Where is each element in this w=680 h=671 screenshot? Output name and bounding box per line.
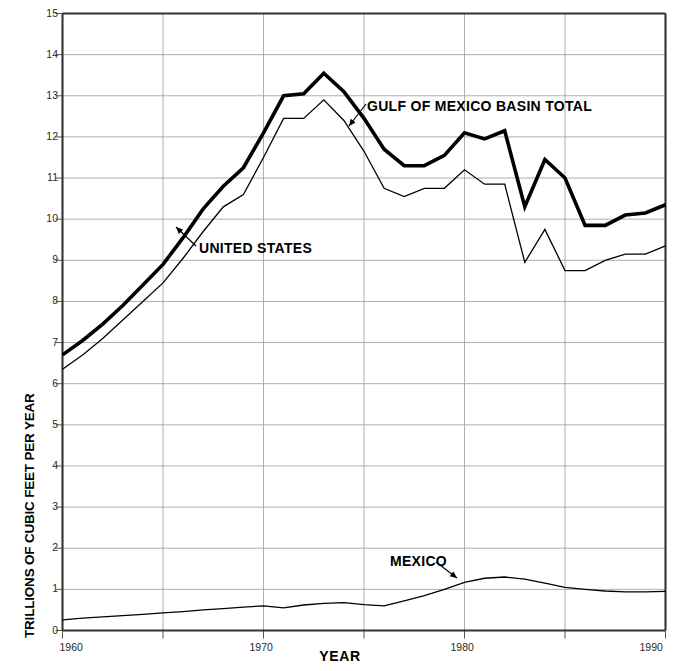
series-label-united-states: UNITED STATES	[199, 240, 312, 256]
series-label-gulf-of-mexico-basin-total: GULF OF MEXICO BASIN TOTAL	[367, 98, 592, 114]
series-label-mexico: MEXICO	[390, 553, 447, 569]
chart-figure: TRILLIONS OF CUBIC FEET PER YEAR 0123456…	[0, 0, 680, 671]
x-axis-title: YEAR	[0, 648, 680, 664]
